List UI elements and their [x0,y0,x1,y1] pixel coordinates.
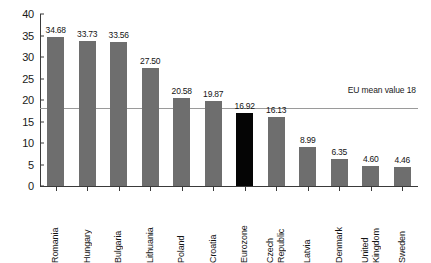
y-tick-label: 10 [22,137,40,149]
bar-poland[interactable]: 20.58 [173,98,190,186]
x-label-slot: Hungary [72,187,104,263]
bar-slot: 20.58 [166,14,198,186]
bar-value-label: 27.50 [140,56,160,68]
x-label-line: Croatia [208,191,219,263]
x-label-slot: CzechRepublic [261,187,293,263]
y-tick-label: 40 [22,8,40,20]
bar-value-label: 33.73 [77,29,97,41]
x-label-eurozone: Eurozone [232,191,258,263]
x-label-hungary: Hungary [74,191,100,263]
x-label-line: Czech [265,191,276,263]
x-label-line: Lithuania [145,191,156,263]
bar-eurozone[interactable]: 16.92 [236,113,253,186]
x-label-line: Sweden [397,191,408,263]
bar-value-label: 20.58 [172,86,192,98]
bar-series: 34.6833.7333.5627.5020.5819.8716.9216.13… [40,14,418,186]
y-tick-label: 15 [22,116,40,128]
x-label-slot: Eurozone [229,187,261,263]
x-label-line: Denmark [334,191,345,263]
y-tick-label: 5 [28,159,40,171]
x-label-line: Bulgaria [113,191,124,263]
x-label-united-kingdom: UnitedKingdom [358,191,384,263]
x-label-line: Kingdom [371,191,382,263]
bar-value-label: 4.46 [394,155,410,167]
x-label-slot: Bulgaria [103,187,135,263]
bar-bulgaria[interactable]: 33.56 [110,42,127,186]
bar-value-label: 16.92 [235,101,255,113]
bar-sweden[interactable]: 4.46 [394,167,411,186]
x-label-line: Hungary [82,191,93,263]
bar-slot: 33.56 [103,14,135,186]
x-label-lithuania: Lithuania [137,191,163,263]
x-label-slot: Lithuania [135,187,167,263]
bar-slot: 8.99 [292,14,324,186]
bar-value-label: 4.60 [363,154,379,166]
x-label-line: Poland [176,191,187,263]
x-label-slot: Poland [166,187,198,263]
x-label-line: Eurozone [239,191,250,263]
bar-value-label: 6.35 [331,147,347,159]
bar-value-label: 34.68 [46,25,66,37]
bar-slot: 27.50 [135,14,167,186]
bar-lithuania[interactable]: 27.50 [142,68,159,186]
x-label-croatia: Croatia [200,191,226,263]
bar-czech-republic[interactable]: 16.13 [268,117,285,186]
x-label-romania: Romania [43,191,69,263]
y-tick-label: 30 [22,51,40,63]
x-label-latvia: Latvia [295,191,321,263]
bar-slot: 16.13 [261,14,293,186]
bar-united-kingdom[interactable]: 4.60 [362,166,379,186]
y-tick-label: 25 [22,73,40,85]
bar-croatia[interactable]: 19.87 [205,101,222,186]
plot-area: 0510152025303540 EU mean value 18 34.683… [40,14,418,186]
bar-hungary[interactable]: 33.73 [79,41,96,186]
x-axis-labels: RomaniaHungaryBulgariaLithuaniaPolandCro… [40,187,418,263]
bar-slot: 19.87 [198,14,230,186]
x-label-bulgaria: Bulgaria [106,191,132,263]
x-label-czech-republic: CzechRepublic [263,191,289,263]
bar-slot: 34.68 [40,14,72,186]
y-tick-label: 0 [28,180,40,192]
bar-latvia[interactable]: 8.99 [299,147,316,186]
bar-slot: 6.35 [324,14,356,186]
bar-chart: 0510152025303540 EU mean value 18 34.683… [0,0,431,263]
x-label-line: United [360,191,371,263]
x-label-poland: Poland [169,191,195,263]
y-tick-label: 35 [22,30,40,42]
x-label-line: Romania [50,191,61,263]
bar-slot: 16.92 [229,14,261,186]
x-label-slot: UnitedKingdom [355,187,387,263]
x-label-slot: Croatia [198,187,230,263]
bar-value-label: 8.99 [300,135,316,147]
x-label-slot: Denmark [324,187,356,263]
bar-romania[interactable]: 34.68 [47,37,64,186]
x-label-line: Latvia [302,191,313,263]
bar-slot: 4.60 [355,14,387,186]
x-label-slot: Romania [40,187,72,263]
y-tick-label: 20 [22,94,40,106]
x-label-slot: Sweden [387,187,419,263]
x-label-denmark: Denmark [326,191,352,263]
bar-value-label: 16.13 [266,105,286,117]
x-label-line: Republic [276,191,287,263]
x-label-sweden: Sweden [389,191,415,263]
x-label-slot: Latvia [292,187,324,263]
bar-slot: 33.73 [72,14,104,186]
bar-slot: 4.46 [387,14,419,186]
bar-value-label: 19.87 [203,89,223,101]
bar-denmark[interactable]: 6.35 [331,159,348,186]
bar-value-label: 33.56 [109,30,129,42]
